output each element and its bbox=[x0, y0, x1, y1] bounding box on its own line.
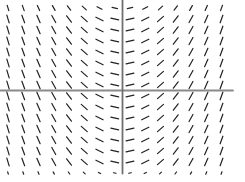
slope-segment bbox=[189, 104, 193, 111]
slope-segment bbox=[67, 148, 72, 154]
slope-segment bbox=[81, 27, 87, 32]
slope-segment bbox=[189, 38, 193, 45]
slope-segment bbox=[189, 27, 193, 34]
slope-segment bbox=[67, 115, 72, 121]
slope-segment bbox=[189, 159, 193, 166]
slope-segment bbox=[158, 60, 164, 65]
slope-segment bbox=[205, 147, 208, 154]
slope-segment bbox=[37, 5, 39, 10]
slope-segment bbox=[126, 117, 134, 119]
slope-segment bbox=[67, 38, 72, 44]
slope-segment bbox=[173, 27, 178, 33]
slope-segment bbox=[37, 125, 40, 132]
slope-segment bbox=[173, 16, 178, 22]
slope-segment bbox=[96, 50, 103, 54]
slope-segment bbox=[142, 116, 149, 120]
slope-segment bbox=[189, 93, 193, 100]
slope-segment bbox=[68, 172, 70, 174]
slope-segment bbox=[189, 49, 193, 56]
slope-segment bbox=[67, 6, 70, 10]
slope-segment bbox=[96, 83, 103, 87]
slope-segment bbox=[67, 49, 72, 55]
slope-segment bbox=[158, 27, 164, 32]
slope-segment bbox=[67, 16, 72, 22]
slope-segment bbox=[7, 81, 9, 89]
slope-segment bbox=[158, 93, 164, 98]
slope-segment bbox=[111, 117, 119, 119]
slope-segment bbox=[81, 159, 87, 164]
slope-segment bbox=[111, 73, 119, 75]
slope-segment bbox=[96, 160, 103, 164]
slope-segment bbox=[111, 18, 119, 20]
slope-segment bbox=[52, 49, 56, 56]
slope-segment bbox=[142, 105, 149, 109]
slope-segment bbox=[53, 172, 54, 174]
slope-segment bbox=[126, 18, 134, 20]
slope-segment bbox=[37, 26, 40, 33]
slope-segment bbox=[175, 172, 177, 174]
slope-segment bbox=[67, 71, 72, 77]
slope-segment bbox=[111, 95, 119, 97]
slope-segment bbox=[96, 127, 103, 131]
slope-segment bbox=[37, 158, 40, 165]
slope-segment bbox=[52, 148, 56, 155]
slope-segment bbox=[173, 148, 178, 154]
slope-segment bbox=[189, 16, 193, 23]
slope-segment bbox=[205, 37, 208, 44]
slope-segment bbox=[190, 172, 191, 174]
slope-segment bbox=[97, 7, 102, 9]
slope-segment bbox=[52, 126, 56, 133]
slope-segment bbox=[81, 93, 87, 98]
slope-segment bbox=[111, 29, 119, 31]
slope-segment bbox=[96, 105, 103, 109]
slope-segment bbox=[37, 48, 40, 55]
slope-segment bbox=[205, 81, 208, 88]
slope-segment bbox=[81, 60, 87, 65]
slope-segment bbox=[111, 128, 119, 130]
slope-segment bbox=[205, 125, 208, 132]
slope-segment bbox=[22, 114, 25, 122]
slope-segment bbox=[126, 51, 134, 53]
slope-segment bbox=[205, 59, 208, 66]
slope-segment bbox=[52, 38, 56, 45]
slope-segment bbox=[158, 115, 164, 120]
slope-segment bbox=[142, 17, 149, 21]
slope-segment bbox=[220, 59, 223, 67]
slope-segment bbox=[126, 150, 134, 152]
slope-segment bbox=[220, 147, 223, 155]
slope-segment bbox=[22, 136, 25, 144]
slope-segment bbox=[142, 50, 149, 54]
slope-segment bbox=[37, 15, 40, 22]
slope-segment bbox=[206, 172, 207, 174]
slope-segment bbox=[7, 114, 9, 122]
slope-segment bbox=[22, 103, 25, 111]
slope-segment bbox=[126, 40, 134, 42]
slope-segment bbox=[7, 48, 9, 56]
slope-segment bbox=[205, 92, 208, 99]
slope-segment bbox=[158, 104, 164, 109]
slope-segment bbox=[37, 37, 40, 44]
slope-segment bbox=[126, 161, 134, 163]
slope-segment bbox=[67, 60, 72, 66]
slope-segment bbox=[173, 159, 178, 165]
slope-segment bbox=[7, 92, 9, 100]
slope-segment bbox=[7, 147, 9, 155]
slope-segment bbox=[205, 15, 208, 22]
slope-segment bbox=[52, 6, 55, 11]
slope-segment bbox=[142, 28, 149, 32]
slope-segment bbox=[126, 128, 134, 130]
slope-segment bbox=[81, 115, 87, 120]
slope-segment bbox=[158, 6, 162, 10]
slope-segment bbox=[7, 5, 9, 10]
slope-segment bbox=[111, 150, 119, 152]
slope-segment bbox=[52, 82, 56, 89]
slope-segment bbox=[220, 81, 223, 89]
slope-segment bbox=[158, 16, 164, 21]
slope-segment bbox=[7, 136, 9, 144]
slope-segment bbox=[22, 15, 25, 23]
slope-segment bbox=[67, 126, 72, 132]
slope-segment bbox=[7, 158, 9, 166]
slope-segment bbox=[142, 127, 149, 131]
slope-segment bbox=[173, 115, 178, 121]
slope-segment bbox=[8, 172, 9, 174]
